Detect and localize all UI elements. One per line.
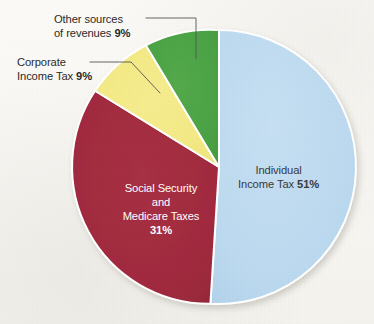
pie-chart-figure: Other sources of revenues 9% Corporate I… (0, 0, 374, 324)
slice-label-social-line2: and (113, 195, 209, 209)
slice-label-other-sources-of-revenues: Other sources of revenues 9% (54, 12, 130, 40)
slice-label-corporate-line2-text: Income Tax (17, 70, 76, 82)
slice-label-corporate-value: 9% (76, 70, 92, 82)
slice-label-individual-line1: Individual (238, 163, 319, 177)
slice-label-other-value: 9% (114, 27, 130, 39)
slice-label-individual-income-tax: Individual Income Tax 51% (238, 163, 319, 191)
slice-label-social-line1: Social Security (113, 181, 209, 195)
slice-label-other-line2-text: of revenues (54, 27, 114, 39)
slice-label-individual-line2: Income Tax 51% (238, 177, 319, 191)
slice-label-individual-value: 51% (297, 178, 319, 190)
slice-label-individual-line2-text: Income Tax (238, 178, 297, 190)
slice-label-social-line3: Medicare Taxes (113, 209, 209, 223)
slice-label-other-line2: of revenues 9% (54, 26, 130, 40)
slice-label-other-line1: Other sources (54, 12, 130, 26)
slice-label-social-security-medicare: Social Security and Medicare Taxes 31% (113, 181, 209, 237)
slice-label-corporate-income-tax: Corporate Income Tax 9% (17, 55, 92, 83)
slice-label-social-value: 31% (113, 223, 209, 237)
pie-chart-canvas (0, 0, 374, 324)
slice-label-corporate-line1: Corporate (17, 55, 92, 69)
slice-label-corporate-line2: Income Tax 9% (17, 69, 92, 83)
